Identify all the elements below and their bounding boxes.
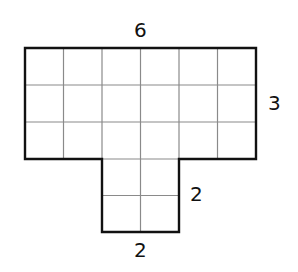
right-height-label: 3 bbox=[268, 93, 281, 113]
t-shape-diagram bbox=[0, 0, 298, 272]
grid-lines bbox=[25, 48, 256, 232]
stem-width-label: 2 bbox=[134, 240, 147, 260]
top-width-label: 6 bbox=[134, 20, 147, 40]
stem-height-label: 2 bbox=[190, 184, 203, 204]
